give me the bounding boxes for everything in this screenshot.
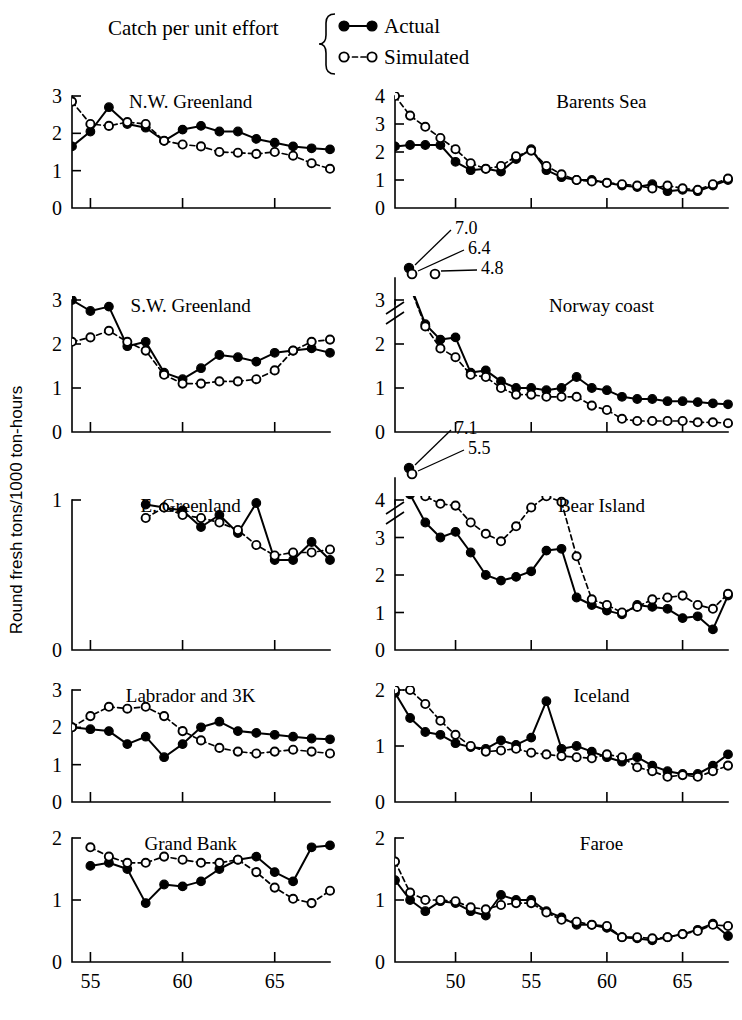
y-tick-label: 1 <box>52 489 62 511</box>
data-point-actual <box>497 736 506 745</box>
y-tick-label: 0 <box>375 421 385 443</box>
data-point-simulated <box>421 492 429 500</box>
data-point-simulated <box>482 530 490 538</box>
panel-s-w-greenland: 0123S.W. Greenland <box>52 289 334 443</box>
data-point-actual <box>421 907 430 916</box>
data-point-actual <box>86 725 95 734</box>
data-point-actual <box>105 302 114 311</box>
data-point-simulated <box>451 731 459 739</box>
data-point-simulated <box>482 373 490 381</box>
data-point-simulated <box>197 380 205 388</box>
data-point-actual <box>326 349 335 358</box>
y-tick-label: 4 <box>375 85 385 107</box>
data-point-simulated <box>123 118 131 126</box>
data-point-simulated <box>142 120 150 128</box>
data-point-actual <box>215 351 224 360</box>
data-point-simulated <box>724 922 732 930</box>
data-point-simulated <box>588 177 596 185</box>
data-point-simulated <box>512 152 520 160</box>
data-point-simulated <box>68 723 76 731</box>
y-tick-label: 0 <box>375 951 385 973</box>
y-tick-label: 1 <box>52 377 62 399</box>
data-point-actual <box>234 353 243 362</box>
y-tick-label: 0 <box>52 639 62 661</box>
data-point-simulated <box>289 746 297 754</box>
y-tick-label: 1 <box>52 889 62 911</box>
data-point-simulated <box>252 541 260 549</box>
data-point-actual <box>307 843 316 852</box>
panel-title: Iceland <box>574 685 630 706</box>
y-tick-label: 1 <box>375 377 385 399</box>
data-point-actual <box>497 576 506 585</box>
data-point-actual <box>252 729 261 738</box>
data-point-simulated <box>573 918 581 926</box>
data-point-actual <box>603 386 612 395</box>
y-tick-label: 4 <box>375 489 385 511</box>
data-point-simulated <box>618 753 626 761</box>
data-point-simulated <box>679 592 687 600</box>
data-point-simulated <box>497 537 505 545</box>
data-point-simulated <box>603 922 611 930</box>
data-point-simulated <box>527 147 535 155</box>
data-point-simulated <box>694 927 702 935</box>
data-point-simulated <box>406 112 414 120</box>
data-point-simulated <box>271 748 279 756</box>
data-point-simulated <box>709 418 717 426</box>
data-point-actual <box>178 740 187 749</box>
data-point-simulated <box>179 140 187 148</box>
legend-label-simulated: Simulated <box>384 45 470 69</box>
data-point-simulated <box>289 895 297 903</box>
y-tick-label: 2 <box>375 141 385 163</box>
x-tick-label: 60 <box>173 970 193 992</box>
data-point-simulated <box>289 548 297 556</box>
legend-label-actual: Actual <box>384 14 440 38</box>
offscale-label: 5.5 <box>468 438 491 458</box>
panel-norway-coast: 01237.06.44.8Norway coast <box>375 218 732 443</box>
data-point-simulated <box>308 159 316 167</box>
data-point-simulated <box>694 601 702 609</box>
data-point-actual <box>326 735 335 744</box>
data-point-actual <box>160 753 169 762</box>
offscale-label: 7.1 <box>455 418 478 438</box>
data-point-simulated <box>197 142 205 150</box>
data-point-actual <box>197 877 206 886</box>
offscale-leader <box>415 230 451 265</box>
data-point-simulated <box>497 746 505 754</box>
data-point-simulated <box>633 763 641 771</box>
data-point-actual <box>693 398 702 407</box>
data-point-actual <box>542 697 551 706</box>
data-point-simulated <box>663 593 671 601</box>
y-tick-label: 2 <box>375 827 385 849</box>
data-point-actual <box>709 625 718 634</box>
data-point-actual <box>252 499 261 508</box>
panel-title: Norway coast <box>549 295 655 316</box>
data-point-simulated <box>68 98 76 106</box>
data-point-actual <box>451 158 460 167</box>
data-point-simulated <box>618 608 626 616</box>
data-point-simulated <box>421 700 429 708</box>
data-point-simulated <box>436 896 444 904</box>
data-point-simulated <box>497 901 505 909</box>
data-point-simulated <box>215 518 223 526</box>
data-point-actual <box>123 740 132 749</box>
data-point-actual <box>215 127 224 136</box>
data-point-actual <box>421 518 430 527</box>
data-point-simulated <box>679 930 687 938</box>
data-point-simulated <box>633 182 641 190</box>
offscale-label: 4.8 <box>481 258 504 278</box>
y-tick-label: 0 <box>52 951 62 973</box>
data-point-actual <box>678 614 687 623</box>
data-point-simulated <box>436 344 444 352</box>
offscale-label: 6.4 <box>468 238 491 258</box>
data-point-simulated <box>694 773 702 781</box>
data-point-simulated <box>406 889 414 897</box>
data-point-actual <box>270 349 279 358</box>
data-point-simulated <box>68 338 76 346</box>
panel-title: Barents Sea <box>556 91 647 112</box>
y-axis-label: Round fresh tons/1000 ton-hours <box>7 386 26 635</box>
data-point-simulated <box>252 868 260 876</box>
offscale-leader <box>415 430 451 465</box>
panel-title: E. Greenland <box>141 495 242 516</box>
data-point-simulated <box>527 503 535 511</box>
data-point-simulated <box>421 896 429 904</box>
